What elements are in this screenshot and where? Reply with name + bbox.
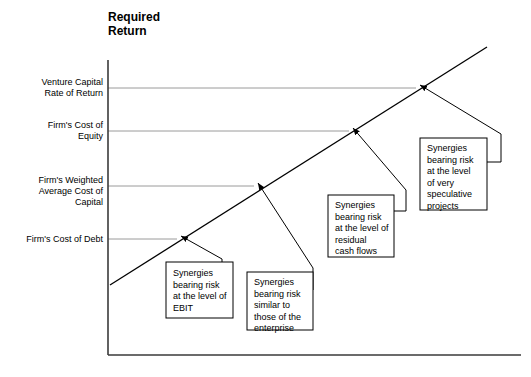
diagram-canvas: Required Return Venture Capital Rate of …	[0, 0, 531, 377]
axis-label-firms-weighted-average-cost-of-capital: Firm's Weighted Average Cost of Capital	[0, 175, 103, 208]
callout-label-enterprise: Synergies bearing risk similar to those …	[254, 277, 301, 335]
axis-label-firms-cost-of-debt: Firm's Cost of Debt	[0, 234, 103, 245]
callout-label-speculative-projects: Synergies bearing risk at the level of v…	[427, 143, 474, 212]
axis-label-firms-cost-of-equity: Firm's Cost of Equity	[0, 120, 103, 142]
callout-label-residual-cash-flows: Synergies bearing risk at the level of r…	[335, 200, 389, 258]
callout-label-ebit: Synergies bearing risk at the level of E…	[173, 268, 227, 314]
axis-label-venture-capital-rate-of-return: Venture Capital Rate of Return	[0, 77, 103, 99]
page-title: Required Return	[108, 10, 160, 38]
